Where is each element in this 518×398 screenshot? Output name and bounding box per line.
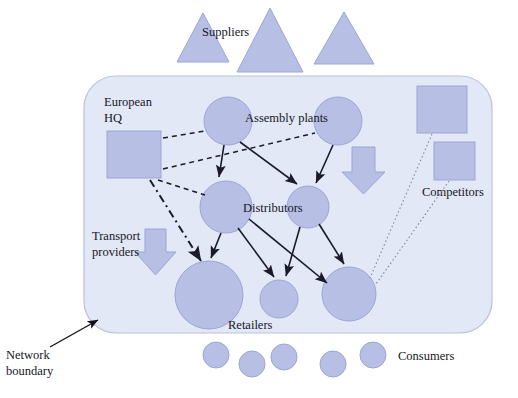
european-hq-square	[107, 131, 161, 178]
supplier-triangle-3	[314, 12, 374, 64]
competitor-square-1	[417, 86, 467, 133]
network-boundary-pointer	[50, 320, 98, 347]
transport-providers-label-line1: Transport	[92, 229, 141, 243]
retailer-circle-2	[260, 280, 298, 318]
consumer-circle-3	[271, 344, 297, 370]
consumer-circle-4	[320, 351, 346, 377]
european-hq-label-line1: European	[104, 95, 153, 109]
network-boundary-label-line1: Network	[6, 348, 50, 362]
consumers-group	[203, 342, 386, 377]
transport-providers-label-line2: providers	[92, 245, 139, 259]
retailers-label: Retailers	[228, 318, 273, 332]
suppliers-label: Suppliers	[202, 25, 249, 39]
consumer-circle-1	[203, 342, 229, 368]
european-hq-label-line2: HQ	[104, 111, 122, 125]
consumer-circle-5	[360, 342, 386, 368]
competitor-square-2	[434, 142, 475, 180]
network-diagram: Suppliers European HQ Competitors Transp…	[0, 0, 518, 398]
distributors-label: Distributors	[243, 201, 303, 215]
supplier-triangle-2	[237, 8, 303, 72]
assembly-plants-label: Assembly plants	[245, 111, 328, 125]
consumer-circle-2	[239, 351, 265, 377]
retailer-circle-3	[322, 267, 376, 321]
competitors-label: Competitors	[422, 185, 484, 199]
suppliers-group	[177, 8, 374, 72]
network-diagram-canvas: Suppliers European HQ Competitors Transp…	[0, 0, 518, 398]
consumers-label: Consumers	[398, 349, 454, 363]
network-boundary-label-line2: boundary	[6, 364, 54, 378]
